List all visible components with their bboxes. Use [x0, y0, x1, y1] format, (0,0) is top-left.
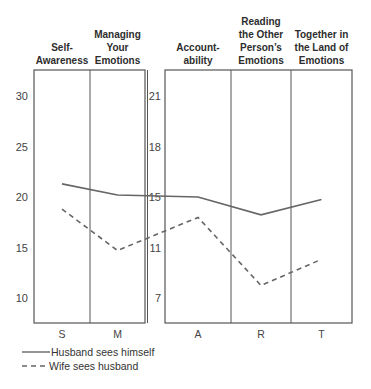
- y-tick-label: 7: [155, 292, 161, 304]
- column-header-line: Self-: [51, 42, 73, 53]
- legend: Husband sees himselfWife sees husband: [22, 346, 154, 372]
- legend-label: Wife sees husband: [49, 360, 138, 372]
- column-header-line: Your: [106, 42, 128, 53]
- y-tick-label: 11: [150, 242, 161, 254]
- x-category-label: T: [318, 328, 325, 340]
- y-tick-label: 21: [149, 90, 161, 102]
- x-category-label: R: [257, 328, 265, 340]
- chart: Self-AwarenessManagingYourEmotionsAccoun…: [0, 0, 371, 389]
- column-header-line: Person’s: [240, 42, 282, 53]
- column-header-line: Emotions: [299, 55, 345, 66]
- y-axis-ticks: 3025201510211815117: [16, 90, 161, 304]
- series-lines: [62, 184, 322, 286]
- x-axis-categories: SMART: [58, 328, 325, 340]
- series-line-husband-sees-himself: [62, 184, 322, 215]
- column-header-line: Emotions: [95, 55, 141, 66]
- y-tick-label: 25: [16, 141, 28, 153]
- series-line-wife-sees-husband: [62, 209, 322, 285]
- legend-label: Husband sees himself: [51, 346, 154, 358]
- x-category-label: M: [113, 328, 122, 340]
- x-category-label: S: [58, 328, 65, 340]
- column-headers: Self-AwarenessManagingYourEmotionsAccoun…: [36, 16, 349, 66]
- column-header-line: Managing: [94, 29, 141, 40]
- y-tick-label: 30: [16, 90, 28, 102]
- x-category-label: A: [194, 328, 201, 340]
- column-header-line: the Other: [239, 29, 284, 40]
- column-header-line: Reading: [241, 16, 280, 27]
- y-tick-label: 15: [16, 242, 28, 254]
- y-tick-label: 15: [149, 191, 161, 203]
- column-header-line: Together in: [295, 29, 349, 40]
- y-tick-label: 18: [149, 141, 161, 153]
- column-header-line: Awareness: [36, 55, 89, 66]
- y-tick-label: 20: [16, 191, 28, 203]
- column-header-line: Emotions: [238, 55, 284, 66]
- column-header-line: Account-: [176, 42, 219, 53]
- y-tick-label: 10: [16, 292, 28, 304]
- column-header-line: the Land of: [295, 42, 350, 53]
- column-header-line: ability: [184, 55, 213, 66]
